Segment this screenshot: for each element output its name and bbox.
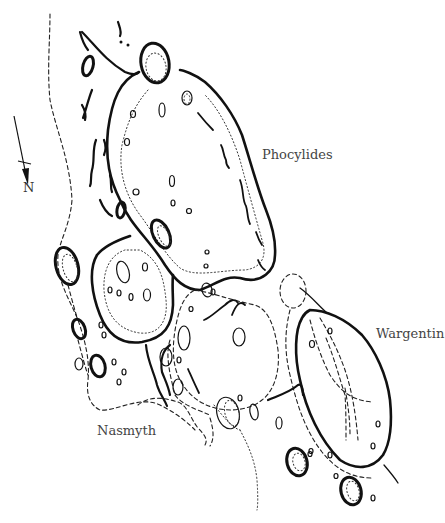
ridge <box>221 145 229 168</box>
ridge <box>161 345 170 395</box>
crater <box>159 103 165 117</box>
crater-dashed <box>280 274 306 308</box>
ridge <box>188 369 199 393</box>
crater <box>328 452 332 458</box>
crater-east-rim <box>182 91 192 105</box>
crater <box>276 417 282 429</box>
crater <box>376 421 380 427</box>
ridge <box>204 300 238 320</box>
crater <box>308 452 312 457</box>
ridge <box>384 465 398 483</box>
crater <box>249 403 260 420</box>
crater-map <box>0 0 445 523</box>
crater <box>310 341 315 348</box>
phocylides-floor-boundary <box>121 90 264 273</box>
crater <box>233 328 245 346</box>
ridge <box>232 303 245 315</box>
crater <box>125 139 130 146</box>
crater <box>144 289 151 301</box>
wargentin-ridge <box>310 320 372 402</box>
label-nasmyth: Nasmyth <box>97 423 156 438</box>
crater <box>238 395 242 401</box>
crater <box>108 287 112 293</box>
crater <box>204 264 208 268</box>
crater <box>70 318 88 341</box>
crater <box>102 332 106 338</box>
crater <box>133 189 139 195</box>
crater <box>189 307 193 312</box>
crater-north-rim <box>138 41 173 85</box>
crater <box>205 250 209 254</box>
crater <box>81 55 96 77</box>
crater <box>117 379 121 385</box>
label-phocylides: Phocylides <box>262 147 333 162</box>
ridge <box>240 180 250 224</box>
crater <box>114 260 131 284</box>
crater <box>129 294 133 301</box>
ridge <box>258 260 265 270</box>
crater-east-inner <box>184 94 190 104</box>
southern-dotted-trail <box>240 430 258 510</box>
ridge <box>118 22 121 36</box>
wargentin-ridge <box>320 318 358 440</box>
crater <box>88 354 107 379</box>
crater <box>117 290 121 296</box>
crater <box>171 200 175 206</box>
ridge <box>100 200 112 216</box>
crater <box>51 245 82 287</box>
ridge <box>82 32 138 74</box>
crater <box>371 495 375 501</box>
crater <box>75 358 83 370</box>
crater <box>177 357 181 363</box>
crater <box>334 474 338 479</box>
crater <box>338 475 365 507</box>
crater <box>284 446 311 478</box>
crater <box>328 328 332 334</box>
north-label: N <box>23 180 34 195</box>
crater <box>112 359 116 365</box>
nasmyth-north-crater-floor <box>104 250 166 333</box>
ridge <box>90 140 96 186</box>
crater <box>170 176 175 187</box>
ridge <box>198 113 213 130</box>
crater <box>122 369 126 375</box>
outer-boundary-west <box>49 14 195 430</box>
crater <box>178 326 190 350</box>
ridge <box>104 140 106 155</box>
wargentin-ridge <box>326 338 346 440</box>
north-arrow-icon <box>14 116 31 185</box>
crater <box>99 322 103 328</box>
ridge <box>268 385 303 400</box>
ridge <box>82 90 92 120</box>
crater <box>116 201 127 218</box>
crater <box>187 209 192 214</box>
crater <box>371 443 375 449</box>
label-wargentin: Wargentin <box>376 326 444 341</box>
crater <box>143 263 148 271</box>
